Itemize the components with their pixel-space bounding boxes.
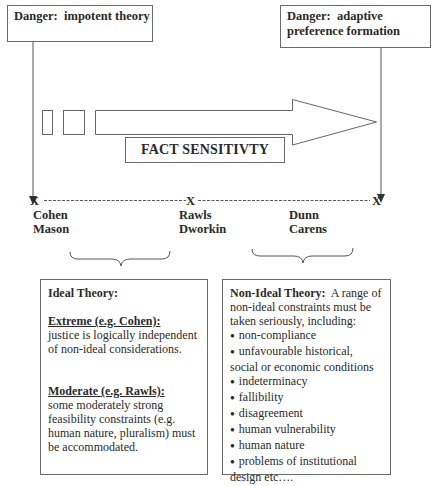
axis-name-group-2: Rawls Dworkin (179, 208, 226, 236)
name-rawls: Rawls (179, 208, 226, 222)
ideal-theory-panel: Ideal Theory: Extreme (e.g. Cohen): just… (40, 279, 208, 475)
name-dworkin: Dworkin (179, 222, 226, 236)
arrow-tail-block-2 (64, 111, 85, 135)
list-item: problems of institutional design etc…. (230, 454, 383, 484)
name-carens: Carens (289, 222, 327, 236)
axis-marker-cohen: X (30, 195, 39, 207)
danger-left-label: Danger: (14, 9, 58, 23)
list-item: unfavourable historical, social or econo… (230, 344, 383, 374)
extreme-text: justice is logically independent of non-… (48, 328, 200, 356)
list-item: indeterminacy (230, 374, 383, 390)
fact-sensitivity-label: FACT SENSITIVTY (125, 137, 285, 163)
extreme-title: Extreme (e.g. Cohen): (48, 314, 200, 328)
axis-marker-end: X (372, 195, 381, 207)
list-item: non-compliance (230, 328, 383, 344)
arrow-tail-block-1 (43, 111, 53, 135)
right-curly-brace-icon (252, 248, 353, 263)
axis-marker-rawls: X (186, 195, 195, 207)
ideal-theory-heading: Ideal Theory: (48, 286, 200, 300)
danger-adaptive-preference-box: Danger: adaptive preference formation (280, 5, 431, 48)
name-cohen: Cohen (33, 208, 69, 222)
non-ideal-theory-panel: Non-Ideal Theory: A range of non-ideal c… (222, 279, 391, 475)
non-ideal-constraints-list: non-compliance unfavourable historical, … (230, 328, 383, 484)
danger-impotent-theory-box: Danger: impotent theory (7, 5, 153, 42)
list-item: disagreement (230, 406, 383, 422)
list-item: human vulnerability (230, 422, 383, 438)
name-mason: Mason (33, 222, 69, 236)
left-curly-brace-icon (70, 251, 170, 266)
moderate-title: Moderate (e.g. Rawls): (48, 384, 200, 398)
moderate-text: some moderately strong feasibility const… (48, 398, 200, 454)
name-dunn: Dunn (289, 208, 327, 222)
list-item: fallibility (230, 390, 383, 406)
danger-left-text: impotent theory (64, 9, 150, 23)
axis-name-group-3: Dunn Carens (289, 208, 327, 236)
list-item: human nature (230, 438, 383, 454)
axis-name-group-1: Cohen Mason (33, 208, 69, 236)
non-ideal-heading: Non-Ideal Theory: (230, 286, 325, 300)
danger-right-label: Danger: (287, 9, 331, 23)
